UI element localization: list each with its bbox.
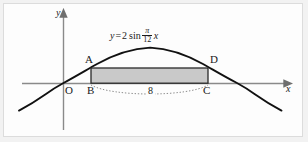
y-axis-label: y — [56, 8, 60, 18]
equation-function: sin — [127, 31, 141, 41]
equation-operator: = — [114, 31, 122, 41]
equation-variable: x — [154, 31, 158, 41]
point-label-b: B — [87, 85, 94, 96]
point-label-a: A — [85, 54, 93, 65]
x-axis-label: x — [286, 84, 290, 94]
origin-label: O — [65, 85, 73, 96]
rectangle-abcd — [91, 68, 208, 83]
figure-svg — [0, 0, 308, 142]
point-label-c: C — [203, 85, 210, 96]
fraction-denominator: 12 — [142, 36, 152, 44]
figure-container: y=2sin π 12 x x y O A B C D 8 — [0, 0, 308, 142]
point-label-d: D — [210, 54, 218, 65]
fraction-numerator: π — [144, 27, 150, 35]
dimension-label: 8 — [146, 86, 155, 96]
equation-label: y=2sin π 12 x — [110, 27, 158, 45]
equation-fraction: π 12 — [142, 27, 152, 45]
